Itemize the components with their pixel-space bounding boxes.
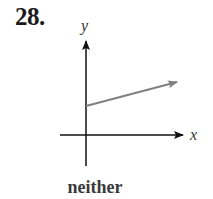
classification-caption: neither [0,177,190,198]
function-ray [86,82,177,106]
y-axis-label: y [79,17,89,35]
x-axis-label: x [189,126,197,143]
coordinate-graph: y x [0,0,213,199]
